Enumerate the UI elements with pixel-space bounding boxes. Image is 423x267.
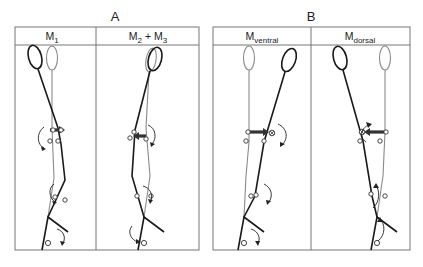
knee-joint-marker [369, 192, 373, 196]
knee-joint-marker [135, 194, 139, 198]
rotation-arrow-head [41, 146, 46, 151]
rotation-arrow-hip [148, 125, 155, 144]
panel-mventral [238, 46, 299, 250]
header-sub: ventral [254, 36, 278, 45]
hip-joint-marker [384, 130, 388, 134]
panel-header-m1: M1 [45, 30, 59, 45]
joint-marker [378, 139, 382, 143]
panel-m1 [26, 44, 68, 250]
ankle-joint-marker [45, 240, 50, 245]
rotation-arrow-head [255, 241, 260, 246]
rotation-arrow-ankle [378, 220, 384, 241]
figure-canvas: A B M1 M2 + M3 [0, 0, 423, 267]
header-main: M [345, 30, 354, 42]
rotation-arrow-knee [264, 184, 271, 202]
group-a: M1 M2 + M3 [15, 27, 199, 250]
header-main: M [129, 30, 138, 42]
group-label-b: B [307, 9, 316, 24]
knee-joint-marker [254, 193, 258, 197]
rotation-arrow-head [148, 199, 153, 204]
rotation-arrow-head [366, 122, 372, 128]
rotation-arrow-hip [38, 127, 44, 148]
rotation-arrow-hip [278, 124, 286, 145]
joint-marker [244, 139, 248, 143]
grey-trunk-ellipse [244, 46, 255, 70]
knee-joint-marker [63, 198, 67, 202]
joint-marker [48, 139, 52, 143]
hip-joint-marker [132, 130, 136, 134]
header-rest: + M [142, 30, 163, 42]
joint-marker [358, 139, 362, 143]
ankle-joint-marker [241, 240, 246, 245]
rotation-arrow-ankle [251, 229, 259, 243]
joint-marker [144, 137, 148, 141]
grey-leg [48, 70, 54, 217]
header-sub2: 3 [163, 36, 168, 45]
grey-trunk-ellipse [47, 46, 58, 70]
rotation-arrow-head [150, 142, 155, 147]
joint-marker [128, 136, 132, 140]
rotation-arrow-head [373, 183, 379, 188]
knee-joint-marker [249, 194, 253, 198]
rotation-arrow-head [52, 201, 57, 205]
header-sub: dorsal [353, 36, 375, 45]
ankle-joint-marker [374, 240, 379, 245]
dark-trunk-ellipse [26, 44, 45, 71]
group-b: Mventral Mdorsal [213, 27, 410, 250]
dark-trunk-ellipse [331, 45, 350, 72]
panel-m2-m3 [128, 46, 165, 250]
panel-mdorsal [331, 45, 397, 250]
ankle-joint-marker [141, 240, 146, 245]
grey-trunk-ellipse [380, 46, 391, 70]
panel-header-m2-m3: M2 + M3 [129, 30, 168, 45]
joint-marker [56, 139, 60, 143]
rotation-arrow-ankle [57, 229, 64, 243]
header-main: M [45, 30, 54, 42]
rotation-arrow-head [60, 241, 65, 246]
header-main: M [246, 30, 255, 42]
joint-marker [262, 139, 266, 143]
hip-joint-marker [59, 128, 63, 132]
header-sub: 1 [54, 36, 59, 45]
knee-joint-marker [383, 194, 387, 198]
hip-joint-marker [51, 128, 55, 132]
group-label-a: A [111, 9, 120, 24]
dark-trunk-ellipse [279, 47, 299, 74]
knee-joint-marker [53, 195, 57, 199]
hip-joint-marker [246, 130, 250, 134]
panel-header-mdorsal: Mdorsal [345, 30, 376, 45]
panel-header-mventral: Mventral [246, 30, 279, 45]
